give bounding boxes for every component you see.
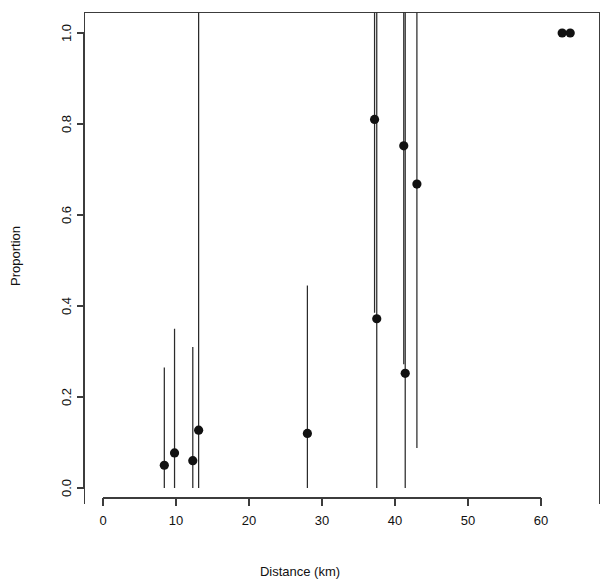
y-tick-label: 0.0 [59, 479, 74, 497]
y-tick-label: 0.8 [59, 115, 74, 133]
y-tick-label: 0.4 [59, 297, 74, 315]
y-tick-label: 1.0 [59, 24, 74, 42]
x-tick-label: 60 [534, 513, 548, 528]
data-point [558, 28, 567, 37]
proportion-vs-distance-chart: 0.00.20.40.60.81.0 0102030405060 Distanc… [0, 0, 601, 584]
x-tick-label: 20 [242, 513, 256, 528]
data-point [372, 314, 381, 323]
x-tick-label: 50 [461, 513, 475, 528]
data-point [160, 461, 169, 470]
x-axis-title: Distance (km) [260, 564, 340, 579]
data-point [566, 28, 575, 37]
y-tick-label: 0.2 [59, 388, 74, 406]
data-point [401, 369, 410, 378]
data-point [188, 456, 197, 465]
x-tick-label: 10 [169, 513, 183, 528]
y-axis-title: Proportion [8, 226, 23, 286]
data-point [303, 429, 312, 438]
y-tick-label: 0.6 [59, 206, 74, 224]
x-tick-label: 40 [388, 513, 402, 528]
data-point [194, 426, 203, 435]
figure-background [0, 0, 601, 584]
data-point [412, 179, 421, 188]
x-tick-label: 0 [99, 513, 106, 528]
data-point [399, 141, 408, 150]
data-point [370, 115, 379, 124]
data-point [170, 448, 179, 457]
x-tick-label: 30 [315, 513, 329, 528]
